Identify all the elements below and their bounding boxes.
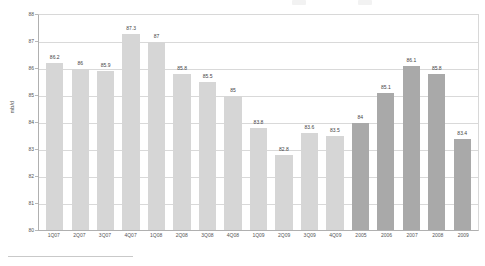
bar-slot: 83.4 [450, 15, 475, 230]
bar-value-label: 85.9 [101, 63, 111, 68]
bar-slot: 86 [67, 15, 92, 230]
y-tick-label: 86 [16, 66, 34, 71]
x-tick-label: 3Q07 [92, 233, 118, 245]
bar-value-label: 83.5 [330, 128, 340, 133]
bar-value-label: 87 [154, 34, 160, 39]
bar-slot: 85.8 [169, 15, 194, 230]
x-tick-label: 4Q08 [220, 233, 246, 245]
bar-slot: 87 [144, 15, 169, 230]
x-tick-label: 2007 [399, 233, 425, 245]
x-tick-label: 1Q07 [41, 233, 67, 245]
bar-slot: 86.2 [42, 15, 67, 230]
bar-slot: 87.3 [118, 15, 143, 230]
y-tick-label: 80 [16, 228, 34, 233]
quarterly-bar[interactable]: 87 [148, 42, 165, 230]
bar-slot: 83.5 [322, 15, 347, 230]
bar-value-label: 85.8 [432, 66, 442, 71]
bar-value-label: 85.8 [177, 66, 187, 71]
y-axis-title: mb/d [9, 87, 15, 127]
bar-value-label: 84 [358, 115, 364, 120]
bar-value-label: 86.1 [406, 58, 416, 63]
bar-value-label: 87.3 [126, 26, 136, 31]
x-tick-label: 3Q08 [195, 233, 221, 245]
bar-value-label: 85.1 [381, 85, 391, 90]
y-tick-label: 84 [16, 120, 34, 125]
bar-value-label: 82.8 [279, 147, 289, 152]
bar-slot: 82.8 [271, 15, 296, 230]
bar-value-label: 83.4 [457, 131, 467, 136]
quarterly-bar[interactable]: 85 [224, 96, 241, 230]
bar-slot: 85.8 [424, 15, 449, 230]
bar-value-label: 83.6 [305, 125, 315, 130]
bar-series: 86.28685.987.38785.885.58583.882.883.683… [39, 15, 478, 230]
y-tick-label: 81 [16, 201, 34, 206]
clipped-title-remnant-left [292, 0, 306, 5]
bar-slot: 83.6 [297, 15, 322, 230]
quarterly-bar[interactable]: 86.2 [46, 63, 63, 230]
y-tick-label: 87 [16, 39, 34, 44]
y-tick-label: 85 [16, 93, 34, 98]
bar-slot: 86.1 [399, 15, 424, 230]
quarterly-bar[interactable]: 85.9 [97, 71, 114, 230]
footnote-divider [8, 256, 133, 257]
x-tick-label: 2Q08 [169, 233, 195, 245]
quarterly-bar[interactable]: 85.5 [199, 82, 216, 230]
quarterly-bar[interactable]: 87.3 [122, 34, 139, 230]
bar-value-label: 85 [230, 88, 236, 93]
x-tick-label: 1Q09 [246, 233, 272, 245]
bar-slot: 85.5 [195, 15, 220, 230]
x-tick-label: 2006 [374, 233, 400, 245]
bar-slot: 83.8 [246, 15, 271, 230]
annual-bar[interactable]: 85.8 [428, 74, 445, 230]
bar-slot: 85 [220, 15, 245, 230]
bar-slot: 85.1 [373, 15, 398, 230]
x-tick-label: 4Q09 [323, 233, 349, 245]
x-tick-label: 2Q07 [67, 233, 93, 245]
y-tick-label: 82 [16, 174, 34, 179]
x-tick-label: 3Q09 [297, 233, 323, 245]
clipped-title-remnant-right [358, 0, 372, 5]
x-tick-label: 2005 [348, 233, 374, 245]
quarterly-bar[interactable]: 83.5 [326, 136, 343, 230]
x-tick-label: 2Q09 [271, 233, 297, 245]
bar-chart: mb/d 88 87 86 85 84 83 82 81 80 86.28685… [0, 0, 485, 266]
y-tick-label: 83 [16, 147, 34, 152]
annual-bar[interactable]: 83.4 [454, 139, 471, 230]
bar-slot: 84 [348, 15, 373, 230]
annual-bar[interactable]: 86.1 [403, 66, 420, 230]
bar-value-label: 86.2 [50, 55, 60, 60]
quarterly-bar[interactable]: 85.8 [173, 74, 190, 230]
x-tick-label: 4Q07 [118, 233, 144, 245]
bar-slot: 85.9 [93, 15, 118, 230]
x-axis-labels: 1Q072Q073Q074Q071Q082Q083Q084Q081Q092Q09… [38, 233, 479, 245]
annual-bar[interactable]: 84 [352, 123, 369, 231]
annual-bar[interactable]: 85.1 [377, 93, 394, 230]
plot-area: 86.28685.987.38785.885.58583.882.883.683… [38, 14, 479, 231]
quarterly-bar[interactable]: 86 [72, 69, 89, 230]
quarterly-bar[interactable]: 83.8 [250, 128, 267, 230]
x-tick-label: 2009 [451, 233, 477, 245]
y-tick-label: 88 [16, 12, 34, 17]
bar-value-label: 85.5 [203, 74, 213, 79]
bar-value-label: 86 [77, 61, 83, 66]
x-tick-label: 1Q08 [143, 233, 169, 245]
bar-value-label: 83.8 [254, 120, 264, 125]
quarterly-bar[interactable]: 82.8 [275, 155, 292, 230]
quarterly-bar[interactable]: 83.6 [301, 133, 318, 230]
x-tick-label: 2008 [425, 233, 451, 245]
